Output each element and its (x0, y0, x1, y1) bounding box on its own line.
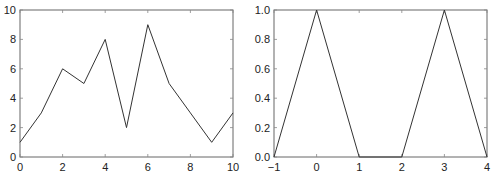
x-tick-label: 0 (314, 161, 320, 173)
x-tick-label: 2 (399, 161, 405, 173)
y-tick-label: 0.0 (255, 151, 270, 163)
x-tick-label: 8 (187, 161, 193, 173)
x-tick-label: 4 (484, 161, 490, 173)
line-chart-right: −1012340.00.20.40.60.81.0 (247, 0, 494, 183)
chart-right-canvas: −1012340.00.20.40.60.81.0 (247, 0, 494, 183)
plot-frame (20, 10, 233, 157)
data-line (20, 25, 233, 143)
line-chart-left: 02468100246810 (0, 0, 247, 183)
y-tick-label: 0.8 (255, 33, 270, 45)
chart-left-canvas: 02468100246810 (0, 0, 247, 183)
y-tick-label: 1.0 (255, 4, 270, 16)
x-tick-label: 4 (102, 161, 108, 173)
plot-frame (274, 10, 487, 157)
x-tick-label: 3 (441, 161, 447, 173)
y-tick-label: 0.6 (255, 63, 270, 75)
x-tick-label: 6 (145, 161, 151, 173)
y-tick-label: 0.2 (255, 122, 270, 134)
x-tick-label: 0 (17, 161, 23, 173)
data-line (274, 10, 487, 157)
y-tick-label: 6 (10, 63, 16, 75)
x-tick-label: 2 (60, 161, 66, 173)
y-tick-label: 10 (4, 4, 16, 16)
y-tick-label: 2 (10, 122, 16, 134)
x-tick-label: 10 (227, 161, 239, 173)
y-tick-label: 0.4 (255, 92, 270, 104)
y-tick-label: 4 (10, 92, 16, 104)
x-tick-label: 1 (356, 161, 362, 173)
y-tick-label: 8 (10, 33, 16, 45)
y-tick-label: 0 (10, 151, 16, 163)
